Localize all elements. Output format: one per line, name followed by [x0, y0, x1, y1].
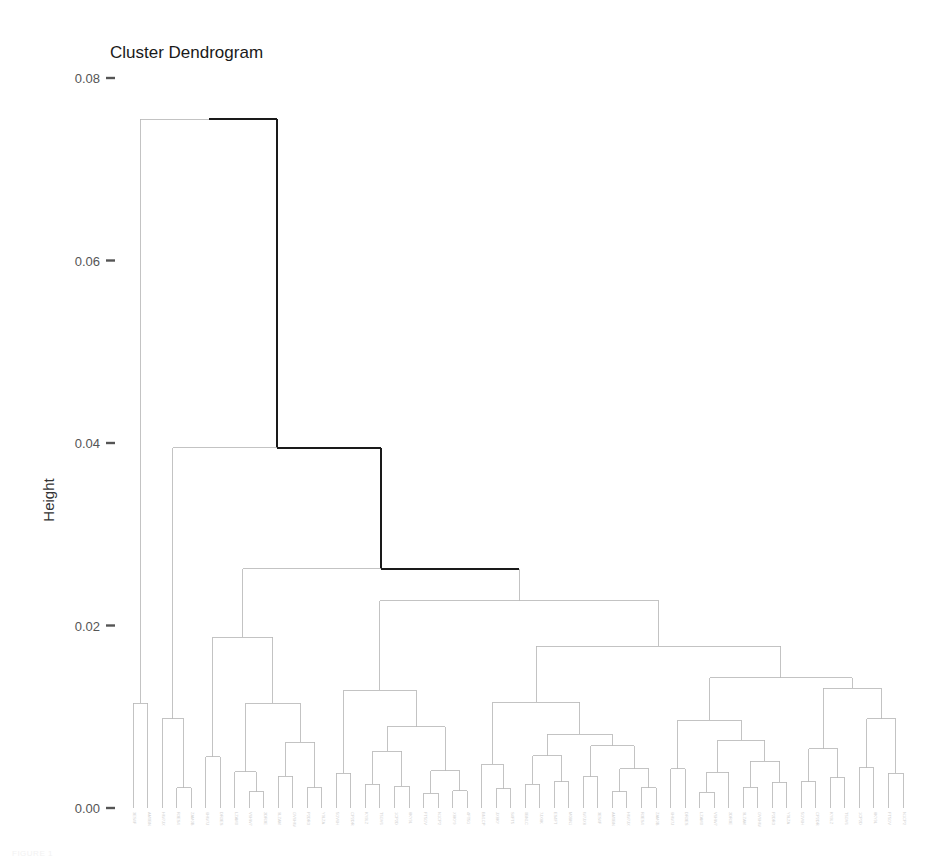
leaf-label: FT5GV — [887, 812, 892, 825]
leaf-label: 3ES4F — [132, 812, 137, 825]
y-axis-tick-label: 0.06 — [75, 254, 100, 269]
leaf-label: S4FT5 — [510, 812, 515, 825]
leaf-label: 9LZAM — [742, 812, 747, 825]
leaf-label: GV6HW — [757, 812, 762, 827]
leaf-label: 2DR3E — [728, 812, 733, 825]
leaf-label: 2DR3E — [263, 812, 268, 825]
leaf-label: HW7JX — [626, 812, 631, 826]
leaf-label: 4FT5G — [466, 812, 471, 824]
leaf-label: 1CP2D — [394, 812, 399, 825]
leaf-label: FT5GV — [423, 812, 428, 825]
leaf-label: P2DR3 — [771, 812, 776, 826]
leaf-label: Y9LZA — [786, 812, 791, 825]
leaf-label: CP2DR — [350, 812, 355, 826]
leaf-label: ZAM0B — [655, 812, 660, 826]
dendrogram-plot: Cluster Dendrogram Height 0.000.020.040.… — [0, 0, 930, 867]
leaf-label: 7JX8K — [539, 812, 544, 824]
y-axis-tick-label: 0.08 — [75, 71, 100, 86]
y-axis-tick-label: 0.02 — [75, 619, 100, 634]
leaf-label: DR3ES — [219, 812, 224, 826]
leaf-label: 5GV6H — [800, 812, 805, 825]
figure-caption-ghost: FIGURE 1 — [12, 849, 53, 858]
leaf-label: 6HW7J — [205, 812, 210, 825]
leaf-label: X8KY9 — [452, 812, 457, 825]
y-axis-tick-label: 0.00 — [75, 801, 100, 816]
leaf-label: N1CP2 — [437, 812, 442, 826]
leaf-label: R3ES4 — [176, 812, 181, 825]
leaf-label: GV6HW — [292, 812, 297, 827]
leaf-label: V6HW7 — [248, 812, 253, 827]
leaf-label: 8KY9L — [873, 812, 878, 825]
leaf-label: T5GV6 — [844, 812, 849, 825]
leaf-label: T5GV6 — [379, 812, 384, 825]
leaf-label: 8KY9L — [408, 812, 413, 825]
leaf-label: 1CP2D — [858, 812, 863, 825]
leaf-label: CP2DR — [815, 812, 820, 826]
leaf-label: KY9LZ — [829, 812, 834, 825]
leaf-label: JX8KY — [495, 812, 500, 825]
leaf-label: Y9LZA — [321, 812, 326, 825]
leaf-label: BN1CP — [481, 812, 486, 826]
leaf-label: 6HW7J — [670, 812, 675, 825]
leaf-label: LZAM0 — [699, 812, 704, 826]
leaf-label: KY9LZ — [364, 812, 369, 825]
leaf-label: AM0BN — [147, 812, 152, 826]
leaf-label: HW7JX — [161, 812, 166, 826]
plot-background — [0, 0, 930, 867]
cluster-dendrogram-figure: Cluster Dendrogram Height 0.000.020.040.… — [0, 0, 930, 867]
leaf-label: R3ES4 — [640, 812, 645, 825]
leaf-label: DR3ES — [684, 812, 689, 826]
leaf-label: N1CP2 — [902, 812, 907, 826]
leaf-label: 0BN1C — [524, 812, 529, 825]
leaf-label: M0BN1 — [568, 812, 573, 826]
leaf-label: 5GV6H — [335, 812, 340, 825]
leaf-label: ZAM0B — [190, 812, 195, 826]
leaf-label: 9LZAM — [277, 812, 282, 825]
leaf-label: 3ES4F — [597, 812, 602, 825]
leaf-label: W7JX8 — [582, 812, 587, 826]
leaf-label: P2DR3 — [306, 812, 311, 826]
y-axis-tick-label: 0.04 — [75, 436, 100, 451]
leaf-label: LZAM0 — [234, 812, 239, 826]
leaf-label: AM0BN — [611, 812, 616, 826]
leaf-label: ES4FT — [553, 812, 558, 825]
page-title: Cluster Dendrogram — [110, 43, 263, 62]
y-axis-title: Height — [40, 477, 57, 521]
leaf-label: V6HW7 — [713, 812, 718, 827]
